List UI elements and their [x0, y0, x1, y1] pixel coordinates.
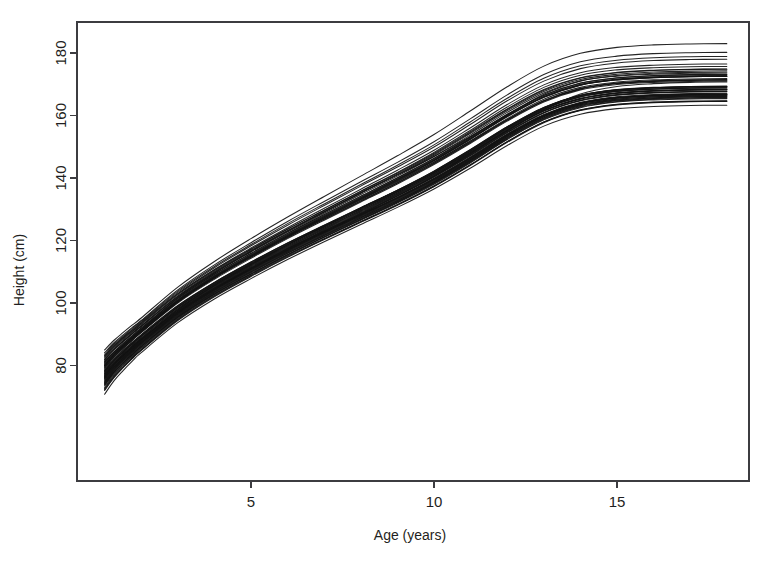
x-tick-label: 15	[609, 493, 626, 510]
y-tick-label: 80	[52, 357, 69, 374]
y-tick-label: 140	[52, 165, 69, 190]
y-tick-label: 120	[52, 228, 69, 253]
x-axis-title: Age (years)	[374, 527, 446, 543]
chart-background	[0, 0, 772, 571]
y-axis-title: Height (cm)	[11, 234, 27, 306]
x-tick-label: 10	[426, 493, 443, 510]
x-tick-label: 5	[247, 493, 255, 510]
y-tick-label: 180	[52, 40, 69, 65]
growth-curves-chart: 80100120140160180 51015 Age (years) Heig…	[0, 0, 772, 571]
y-tick-label: 160	[52, 103, 69, 128]
y-tick-label: 100	[52, 290, 69, 315]
